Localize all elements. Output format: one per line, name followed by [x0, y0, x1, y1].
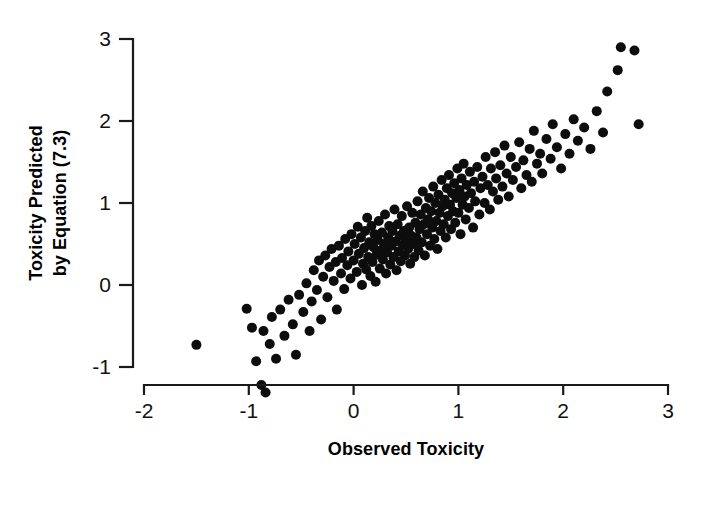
data-point [508, 175, 518, 185]
data-point [516, 183, 526, 193]
data-point [629, 45, 639, 55]
data-point [602, 86, 612, 96]
data-point [413, 196, 423, 206]
data-point [490, 147, 500, 157]
data-point [486, 164, 496, 174]
data-point [332, 305, 342, 315]
x-tick-label: 2 [557, 399, 569, 422]
data-point [357, 280, 367, 290]
data-point [532, 159, 542, 169]
data-point [242, 304, 252, 314]
data-point [339, 284, 349, 294]
data-point [191, 340, 201, 350]
data-point [634, 119, 644, 129]
data-point [500, 141, 510, 151]
data-point [472, 162, 482, 172]
y-tick-label: 1 [99, 191, 111, 214]
data-point [488, 187, 498, 197]
data-point [392, 265, 402, 275]
data-point [493, 195, 503, 205]
x-tick-label: -1 [239, 399, 258, 422]
data-point [573, 136, 583, 146]
y-axis-title-line2: by Equation (7.3) [50, 130, 70, 277]
x-tick-label: 3 [662, 399, 674, 422]
data-point [450, 218, 460, 228]
data-point [495, 160, 505, 170]
x-axis-title: Observed Toxicity [328, 439, 484, 459]
data-point [288, 319, 298, 329]
data-point [261, 387, 271, 397]
data-point [420, 250, 430, 260]
data-point [444, 170, 454, 180]
data-point [569, 114, 579, 124]
data-point [380, 209, 390, 219]
data-point [336, 269, 346, 279]
data-point [284, 295, 294, 305]
data-point [527, 177, 537, 187]
data-point [456, 229, 466, 239]
data-point [468, 223, 478, 233]
data-point [291, 350, 301, 360]
data-point [481, 152, 491, 162]
data-points-layer [191, 42, 643, 397]
data-point [441, 232, 451, 242]
data-point [478, 172, 488, 182]
data-point [318, 272, 328, 282]
data-point [564, 149, 574, 159]
data-point [301, 278, 311, 288]
data-point [428, 182, 438, 192]
y-tick-label: -1 [92, 355, 111, 378]
data-point [307, 296, 317, 306]
data-point [585, 144, 595, 154]
data-point [381, 269, 391, 279]
data-point [474, 209, 484, 219]
data-point [592, 106, 602, 116]
data-point [298, 307, 308, 317]
data-point [265, 339, 275, 349]
data-point [432, 244, 442, 254]
data-point [397, 211, 407, 221]
data-point [316, 314, 326, 324]
data-point [525, 144, 535, 154]
data-point [322, 292, 332, 302]
data-point [470, 196, 480, 206]
data-point [529, 126, 539, 136]
data-point [352, 267, 362, 277]
plot-canvas: -2-101233210-1Observed ToxicityToxicity … [0, 0, 704, 516]
data-point [613, 65, 623, 75]
data-point [459, 159, 469, 169]
data-point [329, 276, 339, 286]
data-point [258, 326, 268, 336]
data-point [556, 164, 566, 174]
data-point [371, 277, 381, 287]
data-point [497, 182, 507, 192]
x-tick-label: 0 [348, 399, 360, 422]
scatter-plot-figure: -2-101233210-1Observed ToxicityToxicity … [0, 0, 704, 516]
data-point [429, 234, 439, 244]
axes-layer [119, 39, 668, 395]
data-point [247, 323, 257, 333]
x-tick-label: 1 [453, 399, 465, 422]
data-point [598, 127, 608, 137]
y-axis-title-line1: Toxicity Predicted [26, 125, 46, 281]
x-tick-label: -2 [135, 399, 154, 422]
data-point [541, 134, 551, 144]
y-tick-label: 2 [99, 109, 111, 132]
data-point [461, 214, 471, 224]
data-point [407, 208, 417, 218]
data-point [491, 173, 501, 183]
data-point [518, 155, 528, 165]
data-point [548, 119, 558, 129]
data-point [504, 191, 514, 201]
data-point [552, 142, 562, 152]
data-point [579, 123, 589, 133]
data-point [267, 312, 277, 322]
y-tick-label: 3 [99, 27, 111, 50]
data-point [514, 137, 524, 147]
y-tick-label: 0 [99, 273, 111, 296]
data-point [312, 285, 322, 295]
data-point [251, 356, 261, 366]
data-point [485, 205, 495, 215]
data-point [546, 154, 556, 164]
data-point [279, 331, 289, 341]
